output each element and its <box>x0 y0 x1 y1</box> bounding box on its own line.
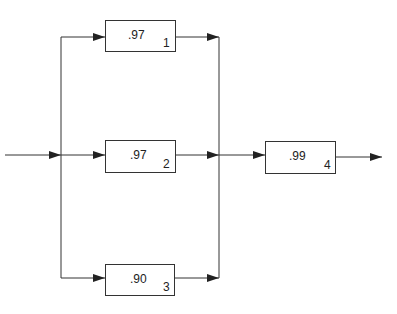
block-4-label: 4 <box>324 158 331 172</box>
block-4: .99 4 <box>265 141 336 174</box>
block-3: .90 3 <box>105 264 175 296</box>
block-1: .97 1 <box>105 20 176 52</box>
block-1-label: 1 <box>163 36 170 50</box>
block-2-reliability: .97 <box>130 148 147 162</box>
block-4-reliability: .99 <box>289 149 306 163</box>
block-3-label: 3 <box>163 280 170 294</box>
block-1-reliability: .97 <box>128 28 145 42</box>
connector-lines <box>0 0 397 314</box>
block-2: .97 2 <box>105 140 176 173</box>
block-3-reliability: .90 <box>130 272 147 286</box>
block-2-label: 2 <box>163 157 170 171</box>
